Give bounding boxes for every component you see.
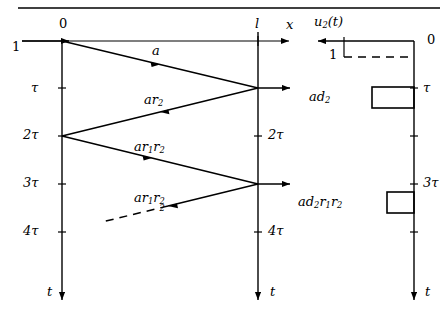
ray-ar1r2sq [168, 184, 258, 206]
u2-pulse-2-label: ad2r1r2 [298, 195, 342, 210]
u2-tick-label-3tau: 3τ [423, 176, 438, 189]
u2-pulse-1-label-sub: 2 [325, 95, 330, 105]
u2-unit-label: 1 [329, 48, 337, 61]
u2-pulse-1 [372, 87, 414, 108]
tick-label-right-4tau: 4τ [268, 224, 283, 237]
u2-tick-label-tau: τ [423, 81, 430, 94]
tick-label-left-3tau: 3τ [23, 176, 38, 189]
time-label-left: t [47, 285, 52, 298]
tick-label-left-4tau: 4τ [23, 224, 38, 237]
wave-label-ar1r2sq-sub2: 2 [159, 204, 164, 212]
u2-pulse-2 [387, 192, 414, 213]
wave-label-ar1r2-base: ar [134, 139, 148, 154]
u2-signal-label: u2(t) [314, 15, 343, 30]
u2-pulse-1-label-base: ad [309, 89, 325, 104]
origin-label: 0 [59, 17, 67, 30]
input-amplitude-label: 1 [12, 40, 20, 53]
wave-label-a: a [152, 44, 160, 57]
wave-label-ar1r2-sub2: 2 [159, 145, 164, 155]
length-label: l [255, 17, 259, 30]
lattice-diagram-figure: 0 l x 1 τ 2τ 3τ 4τ t 2τ 4τ t a ar2 ar1r2… [0, 0, 448, 323]
x-axis-label: x [286, 18, 293, 31]
wave-label-ar1r2sq-base: ar [134, 190, 148, 205]
u2-zero-label: 0 [427, 33, 435, 46]
tick-label-right-2tau: 2τ [268, 128, 283, 141]
tick-label-left-tau: τ [31, 81, 38, 94]
u2-pulse-2-label-sub3: 2 [337, 200, 342, 210]
u2-pulse-2-label-base: ad [298, 194, 314, 209]
u2-pulse-1-label: ad2 [309, 90, 330, 105]
figure-vector-layer [0, 0, 448, 323]
time-label-right: t [270, 285, 275, 298]
wave-label-ar2-base: ar [144, 92, 158, 107]
wave-label-ar1r2: ar1r2 [134, 140, 165, 155]
u2-time-label: t [425, 285, 430, 298]
wave-label-ar2: ar2 [144, 93, 163, 108]
wave-label-ar1r2-squared: ar1r22 [134, 191, 165, 206]
tick-label-left-2tau: 2τ [23, 128, 38, 141]
u2-signal-label-arg: (t) [328, 14, 343, 29]
wave-label-ar2-sub: 2 [158, 98, 163, 108]
